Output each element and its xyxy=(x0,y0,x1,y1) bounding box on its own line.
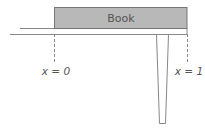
book-on-table-diagram: Book x = 0 x = 1 xyxy=(0,0,205,129)
marker-left-label: x = 0 xyxy=(41,65,71,77)
book-label: Book xyxy=(107,12,135,25)
marker-right-label: x = 1 xyxy=(174,65,203,77)
table-leg xyxy=(157,35,169,124)
